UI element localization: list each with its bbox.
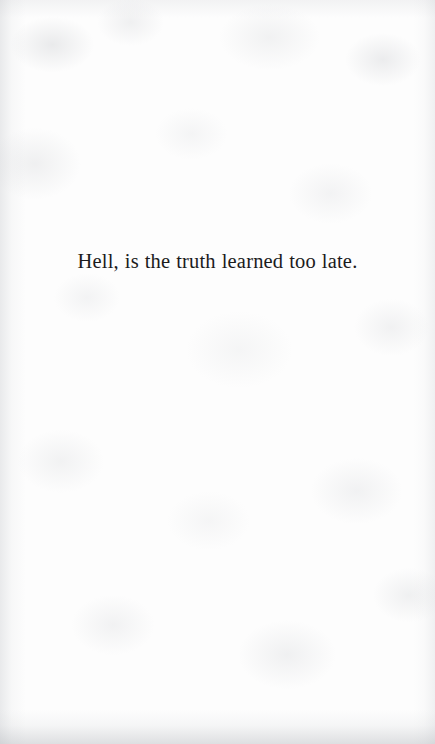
page-left-edge-shading	[0, 0, 26, 744]
body-text-line: Hell, is the truth learned too late.	[78, 248, 358, 275]
page-text-block: Hell, is the truth learned too late.	[0, 248, 435, 275]
scanned-page: Hell, is the truth learned too late.	[0, 0, 435, 744]
page-right-edge-shading	[413, 0, 435, 744]
page-top-edge-shading	[0, 0, 435, 18]
page-bottom-edge-shading	[0, 710, 435, 744]
